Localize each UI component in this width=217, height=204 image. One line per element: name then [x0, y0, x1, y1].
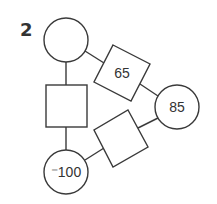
connector-square65-right — [140, 84, 158, 96]
connector-top-square65 — [85, 51, 104, 63]
bottom-circle-value: ⁻100 — [51, 164, 82, 180]
problem-number: 2 — [20, 19, 33, 40]
top-right-square-value: 65 — [114, 65, 130, 81]
connector-right-lowersquare — [138, 118, 158, 128]
triangle-puzzle-diagram: 85 ⁻100 65 2 — [0, 0, 217, 204]
right-circle-value: 85 — [169, 99, 185, 115]
connector-lowersquare-bottom — [85, 148, 104, 160]
bottom-right-square-node — [94, 110, 148, 167]
top-circle-node — [44, 18, 88, 62]
left-square-node — [46, 85, 87, 127]
